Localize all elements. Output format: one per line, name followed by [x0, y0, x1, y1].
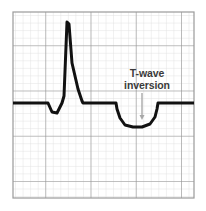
ecg-figure: T-wave inversion	[0, 0, 206, 211]
ecg-diagram: T-wave inversion	[0, 0, 206, 211]
graph-paper-grid	[13, 12, 194, 198]
major-gridlines	[13, 12, 194, 198]
annotation-label-line2: inversion	[124, 79, 170, 91]
annotation-label-line1: T-wave	[130, 67, 165, 79]
